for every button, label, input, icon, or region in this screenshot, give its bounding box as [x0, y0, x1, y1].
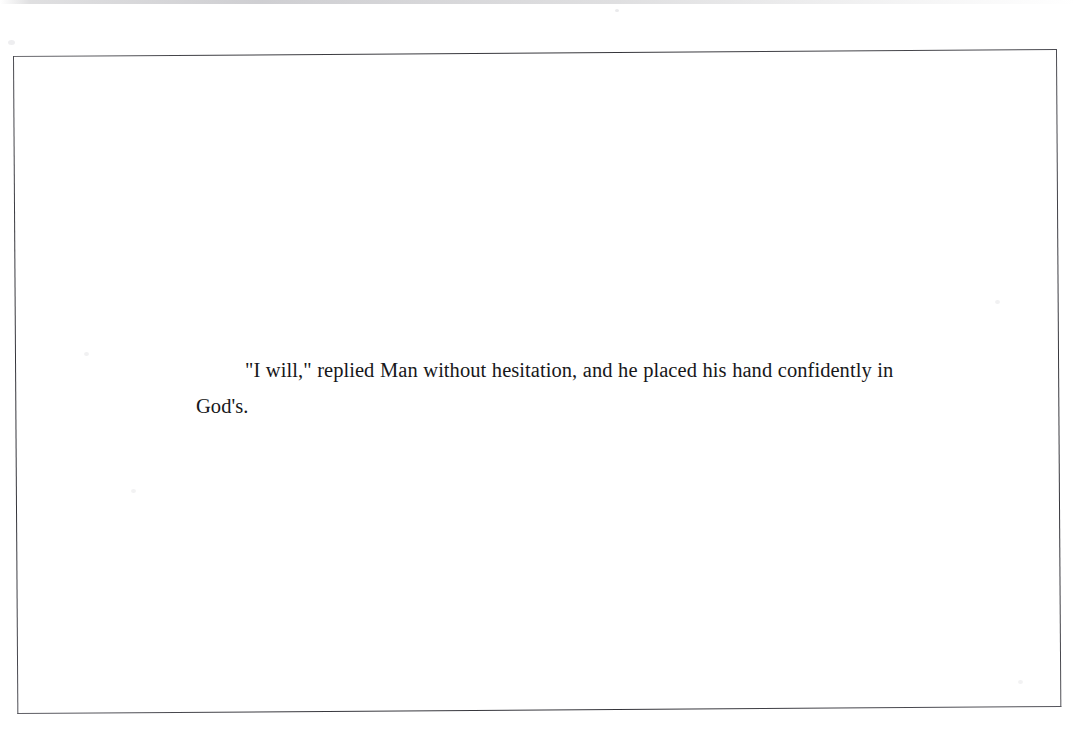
document-text-block: "I will," replied Man without hesitation… — [196, 352, 896, 424]
scan-speck — [8, 40, 15, 45]
scanned-page-surface: "I will," replied Man without hesitation… — [0, 0, 1077, 756]
scan-speck — [84, 352, 89, 356]
body-paragraph: "I will," replied Man without hesitation… — [196, 352, 896, 424]
scan-edge-shadow — [0, 0, 1077, 4]
page-border-top-rule — [13, 49, 1057, 57]
scan-speck — [131, 489, 136, 493]
scan-speck — [1018, 680, 1023, 684]
scan-speck — [995, 300, 1000, 304]
page-border-right-rule — [1056, 49, 1062, 707]
page-border-left-rule — [13, 56, 19, 714]
page-border-bottom-rule — [17, 706, 1061, 714]
scan-speck — [615, 9, 619, 12]
